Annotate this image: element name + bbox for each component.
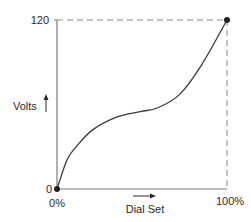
- chart-canvas: 120 0 0% 100% Volts Dial Set: [0, 0, 251, 222]
- endpoint-markers: [54, 17, 230, 192]
- y-axis-label: Volts: [13, 100, 37, 112]
- x-axis-label: Dial Set: [126, 203, 165, 215]
- axes: [54, 20, 227, 189]
- volts-vs-dial-chart: 120 0 0% 100% Volts Dial Set: [0, 0, 251, 222]
- data-point-marker: [224, 17, 230, 23]
- data-curve: [57, 20, 227, 189]
- y-axis-arrow-icon: [44, 94, 49, 112]
- volts-curve: [57, 20, 227, 189]
- x-tick-min: 0%: [49, 197, 65, 209]
- y-tick-min: 0: [46, 183, 52, 195]
- x-axis-arrow-icon: [133, 194, 156, 199]
- x-tick-max: 100%: [216, 195, 244, 207]
- reference-lines: [57, 20, 227, 189]
- y-tick-max: 120: [31, 14, 49, 26]
- data-point-marker: [54, 186, 60, 192]
